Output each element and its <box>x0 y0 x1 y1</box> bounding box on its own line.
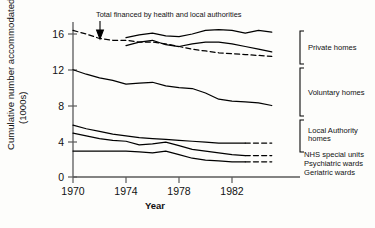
x-tick-label-1982: 1982 <box>220 185 244 197</box>
y-tick-label-4: 4 <box>58 136 64 148</box>
annotation-label: Total financed by health and local autho… <box>96 10 242 19</box>
y-axis-title-line1: Cumulative number accommodated <box>5 0 16 150</box>
chart-svg: Cumulative number accommodated (1000s) 1… <box>0 0 375 228</box>
legend-item-local-authority-homes-line2: homes <box>308 134 331 143</box>
legend-item-geriatric-wards: Geriatric wards <box>304 168 355 177</box>
legend-item-private-homes: Private homes <box>308 43 357 52</box>
x-tick-label-1974: 1974 <box>114 185 138 197</box>
y-tick-label-8: 8 <box>58 100 64 112</box>
chart-figure: Cumulative number accommodated (1000s) 1… <box>0 0 375 228</box>
y-axis-title: Cumulative number accommodated (1000s) <box>5 0 28 150</box>
y-tick-label-0: 0 <box>58 171 64 183</box>
x-axis-ticks: 1970 1974 1978 1982 <box>61 177 244 197</box>
y-axis-title-line2: (1000s) <box>17 91 28 124</box>
legend-brackets <box>300 31 304 152</box>
series-line-total-financed-by-health-and-local-authorities <box>73 30 272 56</box>
legend-item-voluntary-homes: Voluntary homes <box>308 88 365 97</box>
y-tick-label-16: 16 <box>52 28 64 40</box>
legend-item-psychiatric-wards: Psychiatric wards <box>304 159 363 168</box>
series-line-local-authority-homes <box>73 70 272 106</box>
series-line-private-homes <box>126 30 272 38</box>
x-axis-title: Year <box>145 200 165 211</box>
annotation-total-financed: Total financed by health and local autho… <box>96 10 242 39</box>
series-layer <box>73 30 272 162</box>
x-tick-label-1970: 1970 <box>61 185 85 197</box>
y-tick-label-12: 12 <box>52 64 64 76</box>
legend-item-nhs-special-units: NHS special units <box>304 150 364 159</box>
series-line-nhs-special-units <box>73 125 245 143</box>
x-tick-label-1978: 1978 <box>167 185 191 197</box>
legend-labels: Private homes Voluntary homes Local Auth… <box>304 43 365 177</box>
